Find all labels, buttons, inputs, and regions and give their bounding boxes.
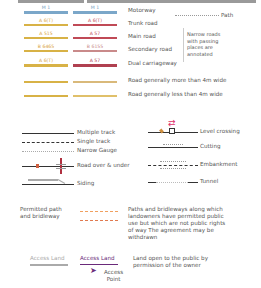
road-number-right: A 57 (73, 58, 117, 63)
access-land-purple-label: Access Land (80, 255, 115, 262)
road-symbol-left (24, 24, 68, 26)
permitted-description: Paths and bridleways along which landown… (128, 206, 225, 241)
road-number-left: A 6(T) (24, 58, 68, 63)
level-crossing-symbol: ⇄ (148, 132, 198, 133)
road-label: Dual carriageway (128, 60, 177, 67)
station-icon: ⇄ (168, 119, 176, 128)
road-label: Road generally more than 4m wide (128, 77, 226, 84)
road-number-left: A 515 (24, 31, 68, 36)
access-land-grey-symbol (30, 264, 68, 266)
embankment-symbol (148, 165, 198, 166)
road-number-right: B 6155 (73, 44, 117, 49)
narrow-note-bracket (183, 28, 184, 62)
access-description: Land open to the public by permission of… (133, 255, 208, 269)
road-number-right: A 6(T) (73, 18, 117, 23)
top-border-gap (84, 0, 87, 3)
road-symbol-right (73, 81, 117, 83)
permitted-path-symbol (80, 211, 118, 212)
road-label: Road generally less than 4m wide (128, 91, 223, 98)
road-label: Secondary road (128, 46, 172, 53)
road-under-icon (36, 164, 39, 168)
cutting-label: Cutting (200, 143, 221, 150)
cutting-symbol (148, 147, 198, 148)
access-land-purple-symbol (80, 264, 118, 265)
road-symbol-left (24, 50, 68, 52)
road-number-left: M 1 (24, 5, 68, 10)
rail-narrow-gauge-symbol (22, 151, 74, 152)
permitted-bridleway-symbol (80, 220, 118, 221)
rail-narrow-gauge-label: Narrow Gauge (77, 147, 117, 154)
path-label: Path (221, 12, 233, 19)
road-label: Trunk road (128, 20, 158, 27)
rail-siding-symbol (22, 184, 74, 185)
crossing-box-icon (169, 128, 175, 134)
rail-road-over-under-label: Road over & under (77, 162, 130, 169)
narrow-note: Narrow roads with passing places are ann… (187, 31, 220, 57)
tunnel-label: Tunnel (200, 178, 218, 185)
path-symbol (175, 15, 219, 16)
permitted-label: Permitted path and bridleway (20, 206, 62, 220)
road-number-left: A 6(T) (24, 18, 68, 23)
access-point-label: Access Point (104, 269, 123, 283)
rail-multiple-track-symbol (22, 133, 74, 134)
road-over-icon (60, 158, 62, 174)
road-symbol-left (24, 37, 68, 39)
road-symbol-left (24, 11, 68, 14)
level-crossing-label: Level crossing (200, 128, 240, 135)
road-symbol-right (73, 11, 117, 14)
access-land-grey-label: Access Land (30, 255, 65, 262)
access-point-icon: ➤ (90, 267, 97, 275)
road-label: Main road (128, 33, 156, 40)
top-border (18, 0, 256, 3)
embankment-label: Embankment (200, 161, 237, 168)
road-number-left: B 6465 (24, 44, 68, 49)
road-symbol-right (73, 24, 117, 26)
road-symbol-right (73, 95, 117, 97)
rail-single-track-symbol (22, 142, 74, 143)
road-symbol-left (24, 81, 68, 83)
road-number-right: A 57 (73, 31, 117, 36)
road-number-right: M 1 (73, 5, 117, 10)
road-symbol-left (24, 64, 68, 67)
road-symbol-right (73, 37, 117, 39)
rail-siding-label: Siding (77, 180, 94, 187)
road-symbol-left (24, 95, 68, 97)
rail-single-track-label: Single track (77, 138, 110, 145)
rail-road-over-under-symbol (22, 166, 74, 167)
rail-multiple-track-label: Multiple track (77, 129, 115, 136)
road-symbol-right (73, 50, 117, 52)
road-symbol-right (73, 64, 117, 67)
road-label: Motorway (128, 7, 155, 14)
